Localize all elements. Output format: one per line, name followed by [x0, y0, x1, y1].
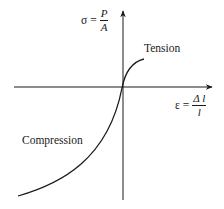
- strain-fraction: Δ l l: [192, 93, 206, 118]
- fraction-denominator: A: [101, 21, 108, 33]
- fraction-numerator: P: [100, 8, 109, 21]
- epsilon-symbol: ε: [175, 100, 180, 112]
- x-axis-label: ε = Δ l l: [175, 93, 206, 118]
- equals-sign: =: [183, 100, 190, 112]
- fraction-denominator: l: [198, 106, 201, 118]
- fraction-numerator: Δ l: [192, 93, 206, 106]
- equals-sign: =: [90, 15, 97, 27]
- y-axis-label: σ = P A: [81, 8, 108, 33]
- stress-fraction: P A: [100, 8, 109, 33]
- tension-curve: [122, 59, 144, 88]
- sigma-symbol: σ: [81, 15, 87, 27]
- compression-label: Compression: [22, 135, 83, 147]
- tension-label: Tension: [144, 43, 180, 55]
